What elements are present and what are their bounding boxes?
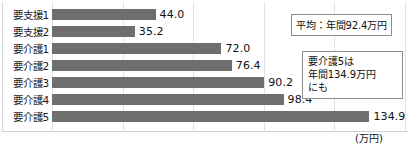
highlight-annotation-line-3: にも (308, 81, 397, 94)
highlight-annotation: 要介護5は 年間134.9万円 にも (302, 51, 403, 99)
bar (52, 43, 221, 54)
bar (52, 60, 232, 71)
bar-row: 要介護5134.9 (0, 108, 411, 125)
highlight-annotation-line-2: 年間134.9万円 (308, 68, 397, 81)
bar-value-label: 44.0 (160, 8, 185, 21)
bar-value-label: 134.9 (373, 110, 405, 123)
category-label: 要介護3 (0, 75, 52, 90)
bar-chart: 要支援144.0要支援235.2要介護172.0要介護276.4要介護390.2… (0, 0, 411, 145)
bar (52, 26, 135, 37)
category-label: 要支援1 (0, 7, 52, 22)
category-label: 要支援2 (0, 24, 52, 39)
average-annotation: 平均：年間92.4万円 (291, 14, 392, 36)
bar-track: 134.9 (52, 108, 411, 125)
category-label: 要介護5 (0, 109, 52, 124)
bar (52, 9, 156, 20)
bar (52, 77, 264, 88)
bar-value-label: 76.4 (236, 59, 261, 72)
highlight-annotation-line-1: 要介護5は (308, 55, 397, 68)
category-label: 要介護4 (0, 92, 52, 107)
x-axis-unit-label: (万円) (355, 130, 383, 145)
bar (52, 111, 369, 122)
bar (52, 94, 284, 105)
bar-value-label: 35.2 (139, 25, 164, 38)
bar-value-label: 90.2 (268, 76, 293, 89)
bar-value-label: 72.0 (225, 42, 250, 55)
category-label: 要介護2 (0, 58, 52, 73)
average-annotation-text: 平均：年間92.4万円 (296, 20, 387, 31)
category-label: 要介護1 (0, 41, 52, 56)
